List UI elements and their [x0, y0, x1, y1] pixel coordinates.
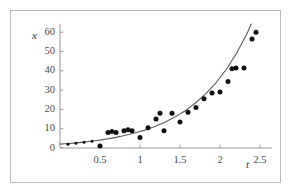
data-point	[91, 140, 94, 143]
data-point	[250, 36, 255, 41]
data-point	[186, 110, 191, 115]
x-tick-label: 2.5	[247, 155, 273, 166]
data-point	[98, 144, 103, 149]
data-point	[218, 90, 223, 95]
data-points-group	[67, 30, 259, 149]
data-point	[254, 30, 259, 35]
y-tick-label: 0	[33, 143, 55, 154]
data-point	[162, 128, 167, 133]
data-point	[170, 111, 175, 116]
data-point	[242, 65, 247, 70]
data-point	[154, 117, 159, 122]
y-tick-label: 60	[33, 27, 55, 38]
data-point	[202, 96, 207, 101]
data-point	[138, 135, 143, 140]
y-tick-label: 50	[33, 46, 55, 57]
x-tick-label: 2	[207, 155, 233, 166]
x-tick-label: 1.5	[167, 155, 193, 166]
fitted-curve	[60, 24, 251, 144]
data-point	[83, 141, 86, 144]
y-tick-label: 20	[33, 104, 55, 115]
x-tick-label: 0.5	[87, 155, 113, 166]
data-point	[226, 79, 231, 84]
plot-area: x t 0102030405060 0.511.522.5	[0, 0, 292, 193]
data-point	[75, 142, 78, 145]
y-tick-label: 10	[33, 123, 55, 134]
data-point	[67, 143, 70, 146]
data-point	[158, 111, 163, 116]
data-point	[178, 119, 183, 124]
data-point	[210, 91, 215, 96]
figure-root: x t 0102030405060 0.511.522.5	[0, 0, 292, 193]
data-point	[146, 125, 151, 130]
data-point	[114, 130, 119, 135]
data-point	[130, 128, 135, 133]
data-point	[234, 65, 239, 70]
y-tick-label: 40	[33, 65, 55, 76]
data-point	[194, 105, 199, 110]
x-tick-label: 1	[127, 155, 153, 166]
y-tick-label: 30	[33, 85, 55, 96]
